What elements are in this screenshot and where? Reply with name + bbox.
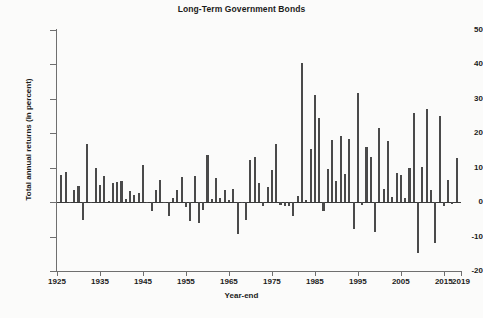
x-axis-label: Year-end	[0, 291, 483, 300]
plot-area	[57, 30, 461, 271]
bar	[451, 202, 453, 203]
bar	[151, 202, 153, 211]
bar	[245, 202, 247, 220]
bar	[262, 202, 264, 206]
bar	[271, 170, 273, 202]
x-tick	[186, 271, 187, 276]
x-tick	[272, 271, 273, 276]
bar	[133, 195, 135, 202]
bar	[146, 202, 148, 203]
bar	[228, 200, 230, 202]
bar	[198, 202, 200, 223]
x-tick-label: 1935	[80, 277, 120, 286]
chart-title: Long-Term Government Bonds	[0, 4, 483, 14]
bar	[202, 202, 204, 210]
bar	[456, 158, 458, 202]
bar	[400, 175, 402, 202]
bar	[391, 197, 393, 202]
x-tick	[461, 271, 462, 276]
y-tick	[50, 271, 57, 272]
bar	[378, 128, 380, 202]
x-tick	[315, 271, 316, 276]
bar	[292, 202, 294, 215]
bar	[254, 157, 256, 202]
bar	[443, 202, 445, 206]
bar	[353, 202, 355, 229]
bar	[108, 201, 110, 202]
bar	[125, 199, 127, 202]
x-tick	[100, 271, 101, 276]
y-tick	[50, 237, 57, 238]
x-tick	[57, 271, 58, 276]
bar	[215, 178, 217, 202]
bar	[396, 173, 398, 202]
bar	[305, 200, 307, 202]
bar	[232, 189, 234, 202]
bar	[404, 198, 406, 202]
bar	[172, 198, 174, 202]
bar	[417, 202, 419, 253]
bar	[365, 147, 367, 202]
bar	[413, 113, 415, 202]
bar	[344, 174, 346, 202]
bar	[120, 181, 122, 202]
bar	[267, 187, 269, 202]
bar	[86, 144, 88, 202]
bar	[279, 202, 281, 204]
bar	[163, 202, 165, 203]
bar	[159, 180, 161, 202]
bar	[348, 139, 350, 202]
x-tick-label: 1955	[166, 277, 206, 286]
bar	[168, 202, 170, 215]
bar	[185, 202, 187, 206]
bar	[421, 167, 423, 202]
bar	[77, 186, 79, 202]
bar	[288, 202, 290, 206]
bar	[95, 168, 97, 202]
bar	[181, 177, 183, 202]
x-tick-label: 1985	[295, 277, 335, 286]
bar	[426, 109, 428, 202]
bar	[194, 176, 196, 202]
bar	[430, 190, 432, 202]
x-tick	[444, 271, 445, 276]
bar	[69, 202, 71, 203]
bar	[301, 63, 303, 202]
y-tick	[50, 99, 57, 100]
y-tick	[50, 168, 57, 169]
bar	[65, 172, 67, 203]
x-tick-label: 1925	[37, 277, 77, 286]
bar	[206, 155, 208, 203]
bar	[439, 116, 441, 202]
x-tick-label: 2005	[381, 277, 421, 286]
bar	[258, 183, 260, 203]
bar	[284, 202, 286, 206]
bar	[189, 202, 191, 221]
bar	[237, 202, 239, 234]
bar	[90, 202, 92, 203]
x-tick-label: 1995	[338, 277, 378, 286]
bar	[361, 202, 363, 205]
bar	[374, 202, 376, 232]
bar	[331, 140, 333, 202]
chart-figure: Long-Term Government Bonds Total annual …	[0, 0, 483, 318]
bar	[310, 149, 312, 202]
bar	[340, 136, 342, 202]
bar	[155, 190, 157, 202]
bar	[322, 202, 324, 211]
y-tick	[50, 30, 57, 31]
bar	[370, 157, 372, 202]
bar	[219, 198, 221, 202]
bar	[112, 183, 114, 202]
bar	[249, 160, 251, 202]
x-tick	[401, 271, 402, 276]
x-tick-label: 1945	[123, 277, 163, 286]
x-tick-label: 2019	[441, 277, 481, 286]
bar	[224, 190, 226, 202]
x-tick	[143, 271, 144, 276]
y-tick	[50, 202, 57, 203]
y-tick	[50, 64, 57, 65]
x-tick	[229, 271, 230, 276]
bar	[99, 185, 101, 203]
bar	[73, 190, 75, 202]
